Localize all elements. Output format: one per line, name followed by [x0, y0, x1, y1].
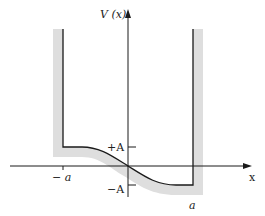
label-plus-a: a: [189, 199, 196, 212]
potential-well-diagram: V (x) x +A −A − a a: [0, 0, 265, 216]
y-axis-label: V (x): [100, 8, 126, 21]
x-axis-arrow-icon: [243, 163, 252, 169]
label-plus-A: +A: [107, 141, 125, 154]
x-axis-label: x: [249, 171, 256, 184]
label-minus-a: − a: [52, 171, 71, 184]
label-minus-A: −A: [107, 183, 125, 196]
